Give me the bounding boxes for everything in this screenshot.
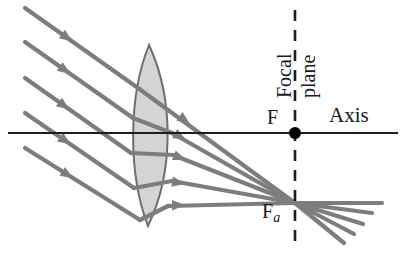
focal-plane-label-word1: Focal — [274, 54, 294, 98]
diverging-rays-group — [295, 203, 382, 243]
in-lens-ray-3 — [131, 153, 173, 155]
focal-point-label: F — [267, 107, 278, 127]
axis-label: Axis — [329, 105, 369, 126]
refracted-ray-arrowhead-1 — [176, 112, 190, 124]
optics-ray-diagram-figure: Axis F Fa Focal plane — [0, 0, 403, 261]
refracted-ray-arrowhead-5 — [172, 200, 185, 210]
incoming-ray-3 — [25, 78, 131, 153]
off-axis-focal-letter: F — [262, 200, 273, 222]
incoming-ray-4 — [25, 113, 134, 188]
focal-point-dot — [289, 127, 301, 139]
incoming-rays-group — [25, 8, 140, 220]
off-axis-focal-subscript: a — [273, 210, 280, 225]
off-axis-focal-point-label: Fa — [262, 201, 280, 225]
refracted-ray-arrowhead-2 — [172, 129, 186, 140]
converging-lens — [133, 45, 168, 226]
incoming-ray-5 — [25, 148, 140, 220]
incoming-ray-2 — [25, 42, 133, 118]
incoming-ray-1 — [25, 8, 138, 88]
refracted-ray-3 — [173, 155, 295, 203]
focal-plane-label-word2: plane — [298, 55, 318, 98]
ray-diagram-canvas — [0, 0, 403, 261]
